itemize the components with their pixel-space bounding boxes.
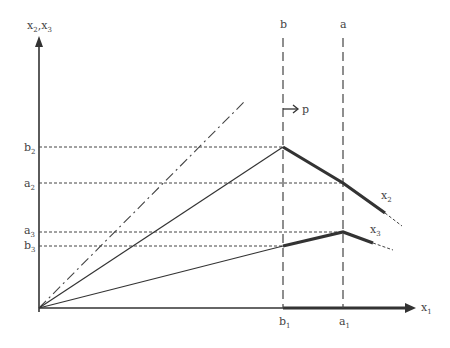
x-axis-arrow-icon (405, 303, 416, 313)
ray-to-b2 (39, 147, 283, 308)
arrow-label-p: p (302, 103, 309, 116)
x-axis-label: x1 (421, 301, 432, 316)
level-label-b3: b3 (24, 239, 36, 254)
vertical-label-a: a (340, 18, 347, 31)
curve-label-x3: x3 (370, 223, 381, 238)
level-label-a3: a3 (24, 224, 35, 239)
curve-x2 (283, 147, 385, 213)
axis-label-b1: b1 (279, 315, 291, 330)
level-label-a2: a2 (24, 177, 35, 192)
y-axis-arrow-icon (35, 36, 43, 47)
curve-x2-extension (385, 213, 402, 226)
dash-dot-ray (39, 100, 246, 308)
curve-label-x2: x2 (381, 189, 392, 204)
diagram-canvas: x2,x3 b a p b2 a2 a3 b3 x2 x3 b1 a1 x1 (0, 0, 450, 348)
vertical-label-b: b (280, 18, 287, 31)
ray-to-b3 (39, 246, 283, 308)
axis-label-a1: a1 (339, 315, 350, 330)
y-axis-label: x2,x3 (27, 19, 52, 34)
curve-x3 (283, 232, 373, 246)
curve-x3-extension (373, 243, 393, 250)
level-label-b2: b2 (24, 141, 36, 156)
